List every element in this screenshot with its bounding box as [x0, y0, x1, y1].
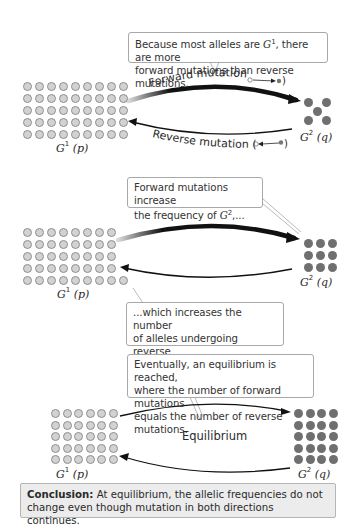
- g1-allele: [107, 118, 116, 127]
- g1-allele: [59, 252, 68, 261]
- g1-allele: [71, 252, 80, 261]
- g1-allele: [119, 276, 128, 285]
- callout-increase-reverse: ...which increases the number of alleles…: [126, 302, 284, 346]
- g1-allele: [47, 130, 56, 139]
- g1-allele: [59, 106, 68, 115]
- g1-allele: [47, 276, 56, 285]
- g1-allele: [119, 118, 128, 127]
- g2-allele: [306, 455, 315, 464]
- g1-allele: [23, 228, 32, 237]
- g1-allele: [47, 118, 56, 127]
- g2-allele-grid: [294, 409, 338, 464]
- g1-allele: [107, 228, 116, 237]
- g2-allele: [294, 409, 303, 418]
- g1-allele: [97, 409, 106, 418]
- g1-allele: [35, 264, 44, 273]
- g1-allele: [83, 276, 92, 285]
- g1-allele: [63, 409, 72, 418]
- g1-allele: [71, 276, 80, 285]
- g1-allele: [74, 455, 83, 464]
- grid-spacer: [119, 252, 128, 261]
- g1-allele: [109, 421, 118, 430]
- g1-allele: [107, 94, 116, 103]
- g1-allele: [23, 240, 32, 249]
- g1-allele: [95, 276, 104, 285]
- g1-allele: [51, 455, 60, 464]
- g1-allele: [86, 432, 95, 441]
- g2-label: G2 (q): [298, 467, 330, 481]
- g1-label: G1 (p): [56, 141, 88, 155]
- g1-allele: [107, 276, 116, 285]
- g2-label: G2 (q): [300, 275, 332, 289]
- g1-allele: [47, 82, 56, 91]
- g1-allele: [35, 94, 44, 103]
- g1-allele: [95, 94, 104, 103]
- g1-allele: [74, 432, 83, 441]
- g1-allele: [107, 130, 116, 139]
- g2-allele: [306, 432, 315, 441]
- reverse-mutation-arrow: [124, 268, 292, 277]
- g1-allele: [119, 82, 128, 91]
- g2-allele: [328, 239, 337, 248]
- g1-allele: [35, 276, 44, 285]
- g2-allele: [328, 263, 337, 272]
- g2-allele: [306, 444, 315, 453]
- conclusion-box: Conclusion: At equilibrium, the allelic …: [20, 483, 336, 518]
- g2-allele: [317, 432, 326, 441]
- g1-allele: [47, 94, 56, 103]
- g1-allele: [59, 276, 68, 285]
- g1-allele: [35, 82, 44, 91]
- g2-allele: [329, 432, 338, 441]
- reverse-mutation-arrow: [124, 457, 290, 472]
- g2-allele: [317, 444, 326, 453]
- g2-allele: [294, 455, 303, 464]
- g2-allele: [304, 263, 313, 272]
- g2-allele-grid: [304, 239, 337, 272]
- g1-allele: [71, 106, 80, 115]
- g1-allele: [95, 264, 104, 273]
- g2-allele: [316, 239, 325, 248]
- g2-allele: [317, 421, 326, 430]
- conclusion-text-1: At equilibrium, the allelic frequencies …: [93, 489, 322, 500]
- g1-allele: [83, 130, 92, 139]
- g1-allele: [86, 421, 95, 430]
- g1-allele: [71, 240, 80, 249]
- g2-allele: [316, 263, 325, 272]
- g1-allele: [74, 444, 83, 453]
- g1-allele: [109, 444, 118, 453]
- g1-allele: [59, 130, 68, 139]
- g1-allele: [107, 106, 116, 115]
- g1-allele: [83, 82, 92, 91]
- g2-allele: [316, 251, 325, 260]
- g1-allele: [119, 106, 128, 115]
- grid-spacer: [119, 228, 128, 237]
- g1-allele: [95, 82, 104, 91]
- g1-allele: [59, 118, 68, 127]
- callout-more-forward-mutations: Because most alleles are G1, there are m…: [128, 32, 328, 63]
- g1-allele: [35, 252, 44, 261]
- g1-allele: [63, 432, 72, 441]
- g1-label: G1 (p): [56, 467, 88, 481]
- g1-allele: [83, 264, 92, 273]
- g1-allele: [107, 240, 116, 249]
- g1-allele: [74, 409, 83, 418]
- g1-allele: [83, 118, 92, 127]
- g1-allele: [97, 455, 106, 464]
- g1-allele: [35, 228, 44, 237]
- g2-allele: [329, 421, 338, 430]
- reverse-mutation-label: Reverse mutation (: [151, 127, 256, 151]
- g2-allele: [294, 432, 303, 441]
- g1-allele: [95, 130, 104, 139]
- g2-allele: [328, 251, 337, 260]
- g1-allele: [107, 252, 116, 261]
- g1-allele: [59, 240, 68, 249]
- g1-allele: [83, 228, 92, 237]
- g1-allele: [71, 82, 80, 91]
- g1-allele: [51, 444, 60, 453]
- g1-allele: [86, 444, 95, 453]
- g1-allele: [23, 118, 32, 127]
- g1-allele: [71, 118, 80, 127]
- g2-allele: [317, 409, 326, 418]
- g2-label: G2 (q): [300, 130, 332, 144]
- g1-allele: [109, 432, 118, 441]
